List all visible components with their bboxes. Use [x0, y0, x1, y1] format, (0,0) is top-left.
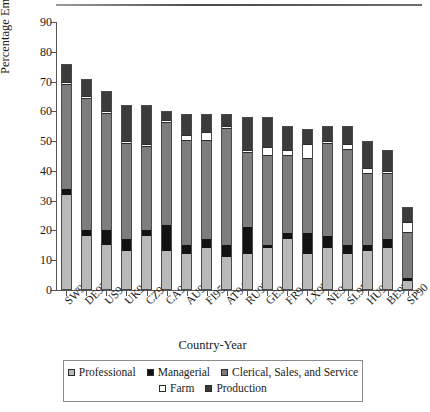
bar-stack[interactable]	[362, 141, 373, 290]
legend-swatch-icon	[68, 369, 75, 376]
bar-stack[interactable]	[282, 126, 293, 290]
bar-segment	[181, 245, 192, 254]
bar-segment	[242, 117, 253, 150]
bar-stack[interactable]	[262, 117, 273, 290]
y-axis-tick-label: 90	[40, 16, 52, 28]
bar-stack[interactable]	[342, 126, 353, 290]
bar-stack[interactable]	[161, 111, 172, 290]
bar-segment	[161, 123, 172, 224]
y-axis-tick-label: 20	[40, 224, 52, 236]
bar-stack[interactable]	[201, 114, 212, 290]
legend-item[interactable]: Farm	[159, 381, 194, 397]
bar-segment	[242, 227, 253, 254]
legend-item-label: Production	[216, 381, 266, 397]
bar-stack[interactable]	[322, 126, 333, 290]
bar-stack[interactable]	[382, 150, 393, 290]
bar-stack[interactable]	[242, 117, 253, 290]
bar-segment	[161, 251, 172, 290]
x-axis-title: Country-Year	[0, 338, 425, 353]
bar-segment	[362, 141, 373, 168]
plot-area: 0102030405060708090SW95DE92US94UK91CZ96C…	[56, 22, 418, 290]
bar-segment	[141, 105, 152, 144]
bar-segment	[382, 239, 393, 248]
bar-segment	[221, 129, 232, 245]
bar-segment	[181, 141, 192, 245]
bar-segment	[201, 114, 212, 132]
bar-stack[interactable]	[402, 207, 413, 290]
bar-segment	[201, 132, 212, 141]
bar-segment	[282, 126, 293, 150]
bar-segment	[382, 174, 393, 240]
bar-segment	[402, 207, 413, 222]
bar-segment	[221, 114, 232, 126]
y-axis-tick-label: 80	[40, 46, 52, 58]
chart-legend: ProfessionalManagerialClerical, Sales, a…	[63, 360, 363, 402]
bar-segment	[402, 233, 413, 278]
bar-segment	[161, 225, 172, 252]
bar-segment	[242, 254, 253, 290]
bar-segment	[382, 150, 393, 171]
bar-segment	[141, 236, 152, 290]
bar-segment	[121, 144, 132, 239]
y-axis-tick-label: 30	[40, 195, 52, 207]
bar-segment	[121, 239, 132, 251]
y-axis-tick-label: 10	[40, 254, 52, 266]
bar-segment	[402, 281, 413, 290]
bar-segment	[302, 144, 313, 159]
bar-segment	[302, 129, 313, 144]
bar-stack[interactable]	[101, 91, 112, 291]
bar-segment	[302, 254, 313, 290]
bar-segment	[121, 105, 132, 141]
bar-segment	[201, 248, 212, 290]
bar-stack[interactable]	[61, 64, 72, 290]
y-axis-tick-label: 60	[40, 105, 52, 117]
bar-segment	[181, 114, 192, 135]
legend-item-label: Managerial	[158, 365, 210, 381]
bar-stack[interactable]	[181, 114, 192, 290]
bar-segment	[362, 174, 373, 245]
bar-segment	[302, 233, 313, 254]
legend-swatch-icon	[147, 369, 154, 376]
bar-stack[interactable]	[121, 105, 132, 290]
bar-segment	[201, 141, 212, 239]
bar-segment	[342, 245, 353, 254]
legend-item-label: Clerical, Sales, and Service	[232, 365, 358, 381]
bar-stack[interactable]	[302, 129, 313, 290]
bar-segment	[161, 111, 172, 120]
legend-item[interactable]: Production	[205, 381, 266, 397]
legend-item-label: Farm	[170, 381, 194, 397]
bar-segment	[121, 251, 132, 290]
bar-segment	[262, 117, 273, 147]
bar-segment	[101, 91, 112, 112]
bar-segment	[181, 254, 192, 290]
bar-segment	[282, 239, 293, 290]
bar-segment	[342, 254, 353, 290]
bar-segment	[322, 126, 333, 141]
bar-segment	[61, 85, 72, 189]
bar-segment	[342, 150, 353, 245]
y-axis-title: Percentage Employed	[0, 0, 13, 74]
bar-segment	[362, 251, 373, 290]
bar-segment	[402, 222, 413, 234]
y-axis-tick-label: 70	[40, 76, 52, 88]
legend-item[interactable]: Managerial	[147, 365, 210, 381]
bar-segment	[382, 248, 393, 290]
bar-segment	[101, 230, 112, 245]
bar-segment	[101, 114, 112, 230]
bar-stack[interactable]	[141, 105, 152, 290]
bar-segment	[262, 248, 273, 290]
top-divider-rule	[56, 4, 422, 6]
legend-item-label: Professional	[79, 365, 136, 381]
bar-segment	[322, 144, 333, 236]
bar-segment	[342, 126, 353, 144]
bar-stack[interactable]	[221, 114, 232, 290]
bar-stack[interactable]	[81, 79, 92, 290]
bar-segment	[262, 156, 273, 245]
bar-segment	[221, 245, 232, 257]
bar-segment	[81, 99, 92, 230]
bar-segment	[282, 156, 293, 233]
legend-item[interactable]: Clerical, Sales, and Service	[221, 365, 358, 381]
legend-item[interactable]: Professional	[68, 365, 136, 381]
bar-segment	[101, 245, 112, 290]
